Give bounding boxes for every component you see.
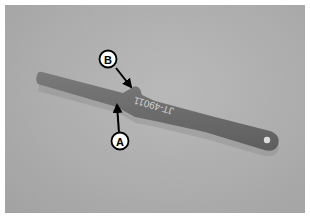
callout-b-arrow bbox=[116, 68, 131, 87]
callout-a-label: A bbox=[116, 136, 124, 148]
tool-hole bbox=[264, 137, 270, 143]
callout-b-label: B bbox=[104, 54, 112, 66]
tool-photo: JT-49011 B A bbox=[5, 5, 305, 213]
photo-drawing: JT-49011 B A bbox=[5, 5, 305, 213]
